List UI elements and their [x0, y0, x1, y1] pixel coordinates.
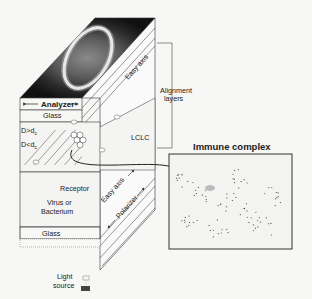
diagram-canvas: Analyzer Glass Easy axis Alignment layer… — [0, 0, 312, 299]
virus-label-line2: Bacterium — [41, 207, 73, 216]
immune-complex-inset — [169, 154, 292, 249]
top-glass-label: Glass — [43, 111, 62, 120]
lclc-biosensor-diagram: Analyzer Glass Easy axis Alignment layer… — [0, 0, 312, 299]
lclc-label: LCLC — [131, 133, 149, 142]
immune-complex-title: Immune complex — [193, 141, 271, 152]
stack-front-face — [20, 98, 100, 247]
receptor-label: Receptor — [60, 184, 90, 193]
light-source-icon — [81, 276, 90, 291]
light-source-line1: Light — [57, 272, 73, 281]
alignment-label-line2: layers — [164, 94, 184, 103]
virus-label-line1: Virus or — [47, 198, 72, 207]
bottom-glass-label: Glass — [42, 229, 61, 238]
target-particle — [205, 185, 215, 191]
light-source-line2: source — [53, 281, 75, 290]
